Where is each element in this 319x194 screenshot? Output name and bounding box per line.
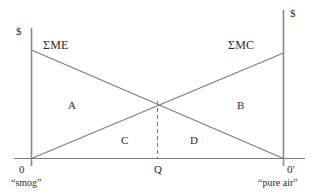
externality-box-diagram: $ $ ΣME ΣMC A B C D Q 0 0′ “smog” “pure … xyxy=(0,0,319,194)
left-origin-label: 0 xyxy=(19,164,25,175)
region-d-label: D xyxy=(190,135,198,146)
equilibrium-quantity-label: Q xyxy=(154,164,162,175)
left-endpoint-name-label: “smog” xyxy=(11,178,42,188)
region-a-label: A xyxy=(68,100,76,111)
sigma-mc-curve-label: ΣMC xyxy=(228,39,254,51)
right-endpoint-name-label: “pure air” xyxy=(258,178,298,188)
right-axis-currency-label: $ xyxy=(290,8,296,19)
right-origin-label: 0′ xyxy=(287,164,295,175)
region-c-label: C xyxy=(121,135,128,146)
left-axis-currency-label: $ xyxy=(16,26,22,37)
sigma-me-curve-label: ΣME xyxy=(43,39,69,51)
region-b-label: B xyxy=(237,100,244,111)
